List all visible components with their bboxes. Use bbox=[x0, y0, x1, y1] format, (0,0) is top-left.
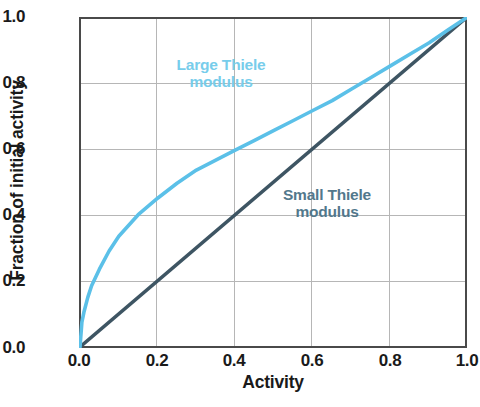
y-tick-label-1.0: 1.0 bbox=[0, 7, 25, 27]
x-axis-label: Activity bbox=[79, 372, 467, 393]
y-tick-label-0.2: 0.2 bbox=[0, 271, 25, 291]
x-tick-label-0.6: 0.6 bbox=[287, 351, 337, 371]
x-tick-label-0.2: 0.2 bbox=[132, 351, 182, 371]
y-tick-label-0.6: 0.6 bbox=[0, 139, 25, 159]
x-tick-label-0.8: 0.8 bbox=[365, 351, 415, 371]
annotation-small-thiele-modulus: Small Thiele modulus bbox=[256, 186, 398, 221]
y-axis-label: Fraction of initial activity bbox=[0, 0, 34, 360]
x-tick-label-1.0: 1.0 bbox=[442, 351, 480, 371]
chart-figure: Fraction of initial activity 1.0 0.8 0.6… bbox=[0, 0, 480, 407]
annotation-large-thiele-modulus: Large Thiele modulus bbox=[150, 56, 292, 91]
y-tick-label-0.4: 0.4 bbox=[0, 205, 25, 225]
x-tick-label-0.4: 0.4 bbox=[209, 351, 259, 371]
y-tick-label-0.8: 0.8 bbox=[0, 73, 25, 93]
y-axis-label-text: Fraction of initial activity bbox=[7, 80, 28, 281]
x-tick-label-0.0: 0.0 bbox=[54, 351, 104, 371]
y-tick-label-0.0: 0.0 bbox=[0, 338, 25, 358]
